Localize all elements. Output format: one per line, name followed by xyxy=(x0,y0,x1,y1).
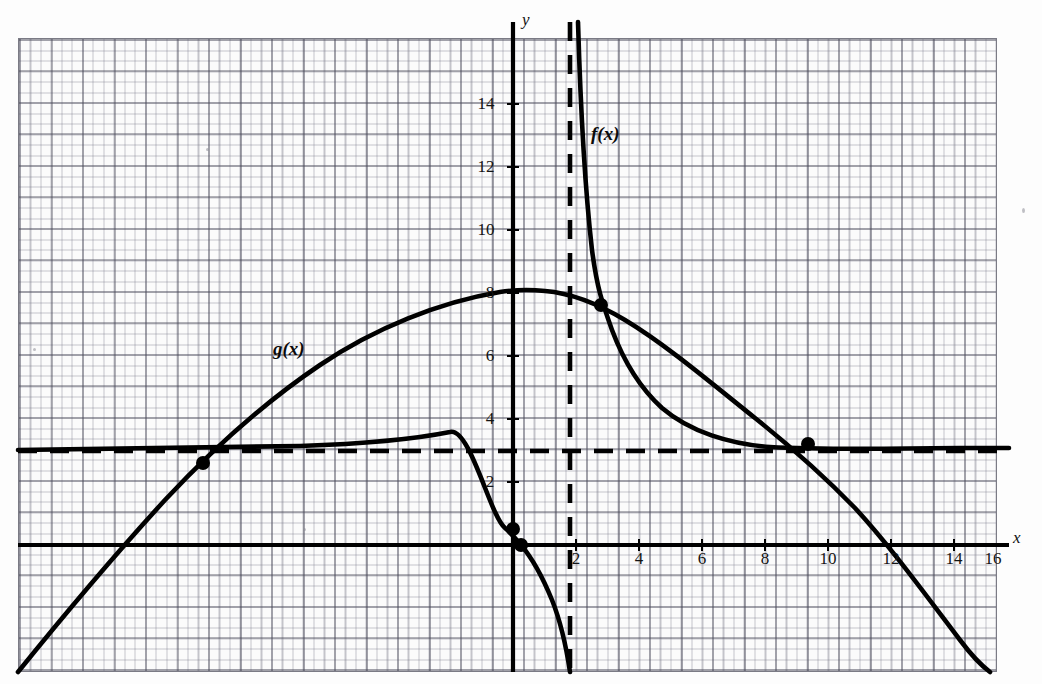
y-axis-label: y xyxy=(522,10,530,30)
paper-speck xyxy=(303,528,306,531)
y-tick-label-8: 8 xyxy=(477,283,503,303)
y-tick-label-14: 14 xyxy=(468,94,504,114)
x-tick-label-16: 16 xyxy=(975,549,1011,569)
x-tick-label-4: 4 xyxy=(621,549,657,569)
x-tick-label-12: 12 xyxy=(873,549,909,569)
curve-label-f: f(x) xyxy=(591,123,619,145)
x-axis-label: x xyxy=(1013,528,1021,548)
x-tick-label-14: 14 xyxy=(936,549,972,569)
paper-speck xyxy=(33,348,36,351)
y-tick-label-6: 6 xyxy=(477,346,503,366)
paper-speck xyxy=(1022,208,1025,213)
x-tick-label-2: 2 xyxy=(558,549,594,569)
y-tick-label-12: 12 xyxy=(468,157,504,177)
curve-label-g: g(x) xyxy=(273,338,305,360)
y-tick-label-4: 4 xyxy=(477,409,503,429)
x-tick-label-6: 6 xyxy=(684,549,720,569)
y-tick-label-10: 10 xyxy=(468,220,504,240)
x-tick-label-10: 10 xyxy=(810,549,846,569)
graph-paper-grid xyxy=(18,38,997,672)
graph-figure: y x 2 4 6 8 10 12 14 16 2 4 6 8 10 12 14… xyxy=(0,0,1042,684)
paper-speck xyxy=(206,148,209,151)
x-tick-label-8: 8 xyxy=(747,549,783,569)
y-tick-label-2: 2 xyxy=(477,472,503,492)
